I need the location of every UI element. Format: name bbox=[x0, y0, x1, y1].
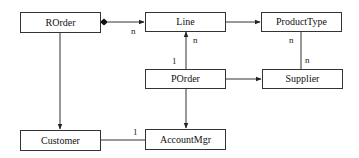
multiplicity-customer-accountmgr: 1 bbox=[133, 128, 138, 137]
class-name: Line bbox=[176, 17, 194, 27]
class-porder[interactable]: POrder bbox=[145, 69, 226, 89]
composition-diamond-icon bbox=[100, 19, 108, 26]
class-name: ProductType bbox=[276, 17, 327, 27]
multiplicity-porder-line-top: n bbox=[193, 36, 198, 45]
class-name: AccountMgr bbox=[160, 135, 211, 145]
multiplicity-rorder-line: n bbox=[131, 27, 136, 36]
class-accountmgr[interactable]: AccountMgr bbox=[145, 129, 226, 150]
class-supplier[interactable]: Supplier bbox=[262, 69, 343, 89]
multiplicity-porder-line-bottom: 1 bbox=[172, 57, 177, 66]
class-name: ROrder bbox=[46, 18, 76, 28]
multiplicity-supplier-bottom: n bbox=[305, 56, 310, 65]
class-name: Customer bbox=[41, 136, 80, 146]
multiplicity-producttype-top: n bbox=[289, 36, 294, 45]
class-rorder[interactable]: ROrder bbox=[20, 12, 101, 33]
class-name: Supplier bbox=[286, 74, 320, 84]
composition-rorder-line bbox=[100, 19, 144, 26]
class-producttype[interactable]: ProductType bbox=[261, 12, 342, 32]
class-customer[interactable]: Customer bbox=[20, 130, 101, 151]
class-line[interactable]: Line bbox=[145, 12, 226, 32]
class-name: POrder bbox=[171, 74, 200, 84]
